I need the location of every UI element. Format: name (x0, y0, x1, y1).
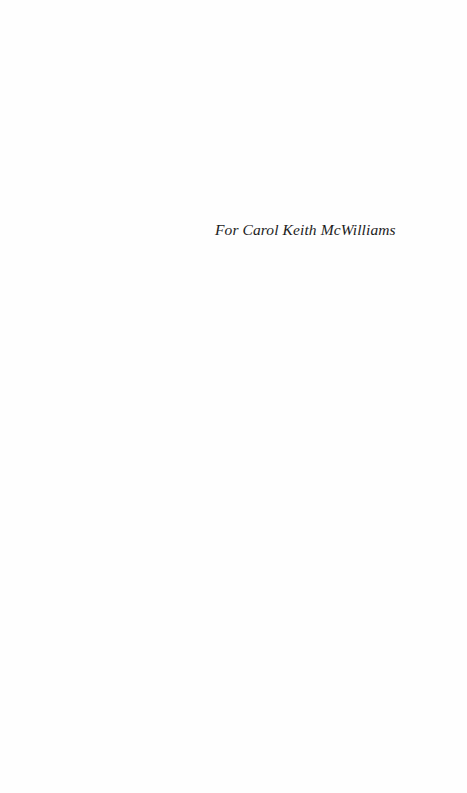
book-page: For Carol Keith McWilliams (0, 0, 467, 793)
dedication-text: For Carol Keith McWilliams (215, 221, 396, 239)
